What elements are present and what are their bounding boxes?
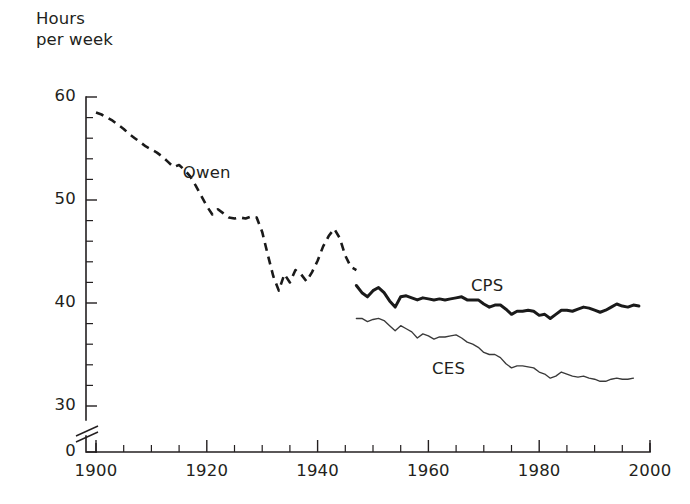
y-tick-label: 40 [34,292,76,311]
series-line-owen [96,112,356,290]
x-tick-label: 1920 [172,461,242,480]
y-tick-label: 50 [34,189,76,208]
y-tick-label: 60 [34,86,76,105]
series-annotation-owen: Owen [183,163,231,182]
x-tick-label: 1980 [504,461,574,480]
series-layer [96,112,639,381]
y-tick-label-zero: 0 [34,441,76,460]
y-tick-label: 30 [34,395,76,414]
series-line-ces [356,318,633,381]
axis-break-slash [76,426,98,436]
axis-break-slash [76,432,98,442]
axes-layer [76,97,650,452]
x-tick-label: 1960 [393,461,463,480]
x-tick-label: 1940 [283,461,353,480]
series-annotation-cps: CPS [471,276,504,295]
x-tick-label: 2000 [615,461,685,480]
series-annotation-ces: CES [432,359,465,378]
chart-figure: Hoursper week 304050600 1900192019401960… [0,0,690,504]
y-axis-line-lower [86,436,96,452]
x-tick-label: 1900 [61,461,131,480]
plot-area [0,0,690,504]
